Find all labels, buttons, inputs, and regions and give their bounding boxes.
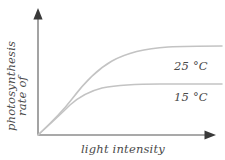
photosynthesis-light-intensity-chart: 25 °C 15 °C light intensity rate of phot… bbox=[0, 0, 225, 160]
y-axis-title-line2: photosynthesis bbox=[4, 41, 18, 131]
series-label-25c: 25 °C bbox=[173, 59, 208, 73]
x-axis-title: light intensity bbox=[81, 142, 165, 156]
series-label-15c: 15 °C bbox=[174, 90, 208, 104]
chart-background bbox=[0, 0, 225, 160]
chart-canvas: 25 °C 15 °C light intensity rate of phot… bbox=[0, 0, 225, 160]
